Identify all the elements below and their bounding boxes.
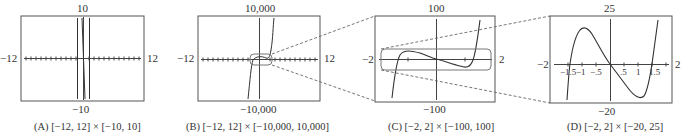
panel-d-ymax-label: 25 <box>604 3 615 14</box>
panel-d-tick-label: −.5 <box>590 67 602 78</box>
panel-d-tick-label: −1.5 <box>560 67 576 78</box>
panel-d-tick-label: −1 <box>576 67 586 78</box>
panel-d-caption: (D) [−2, 2] × [−20, 25] <box>567 121 663 132</box>
panel-d-ymin-label: −20 <box>598 106 615 117</box>
panel-d-tick-label: 1 <box>636 67 641 78</box>
panel-d-tick-label: .5 <box>620 67 627 78</box>
panel-d-tick-label: 1.5 <box>649 67 660 78</box>
panel-d-xmin-label: −2 <box>537 59 549 70</box>
panel-d: 25 −20 −2 2 −1.5 −1 −.5 .5 1 1.5 (D) [−2… <box>0 0 685 138</box>
panel-d-xmax-label: 2 <box>675 59 681 70</box>
